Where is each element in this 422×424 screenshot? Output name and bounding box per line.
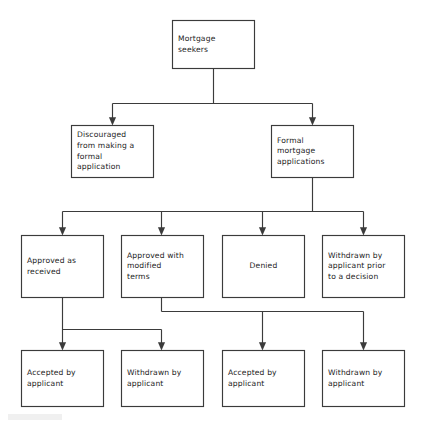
page-caption-remnant (8, 414, 62, 420)
node-approved-as-received (22, 236, 104, 298)
arrowhead-to-approved-modified (158, 227, 165, 235)
arrowhead-to-formal (309, 117, 316, 125)
node-mortgage-seekers (173, 21, 255, 69)
arrowhead-to-withdrawn-1 (158, 342, 165, 350)
arrowhead-to-accepted-2 (259, 342, 266, 350)
flowchart-canvas (0, 0, 422, 424)
arrowhead-to-denied (259, 227, 266, 235)
arrowhead-to-discouraged (109, 117, 116, 125)
node-withdrawn-1 (122, 351, 204, 407)
edge-modified-bus (162, 298, 364, 346)
node-withdrawn-2 (323, 351, 405, 407)
edge-seekers-bus (113, 69, 313, 121)
node-approved-modified (122, 236, 204, 298)
arrowhead-to-withdrawn-prior (360, 227, 367, 235)
node-accepted-1 (22, 351, 104, 407)
edge-received-bus (63, 298, 162, 346)
node-formal-applications (272, 126, 354, 178)
node-withdrawn-prior (323, 236, 405, 298)
flowchart-diagram: Mortgage seekers Discouraged from making… (0, 0, 422, 424)
node-accepted-2 (223, 351, 305, 407)
edge-formal-bus (63, 178, 364, 231)
arrowhead-to-withdrawn-2 (360, 342, 367, 350)
arrowhead-to-accepted-1 (59, 342, 66, 350)
node-denied (223, 236, 305, 298)
node-discouraged (72, 126, 154, 178)
arrowhead-to-approved-as-received (59, 227, 66, 235)
